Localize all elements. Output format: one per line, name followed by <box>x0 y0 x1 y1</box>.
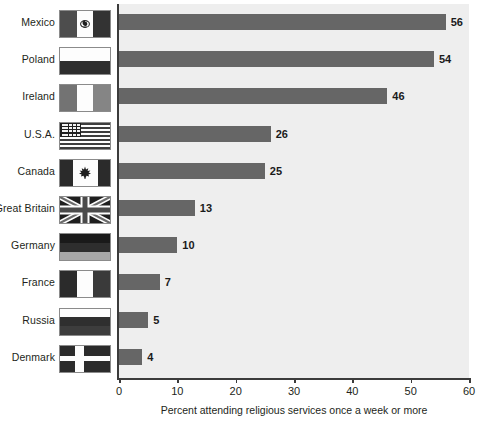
ireland-flag <box>59 84 111 112</box>
country-label: Denmark <box>0 339 55 375</box>
bar-value-label: 26 <box>276 126 288 142</box>
bar-value-label: 25 <box>270 163 282 179</box>
x-axis-tick <box>352 378 354 383</box>
bar-row: Russia5 <box>0 302 494 338</box>
bar <box>119 200 195 216</box>
country-label: Great Britain <box>0 190 55 226</box>
great-britain-flag <box>59 196 111 224</box>
bar-value-label: 56 <box>451 14 463 30</box>
bar <box>119 349 142 365</box>
usa-flag <box>59 122 111 150</box>
x-axis-tick-label: 60 <box>449 385 489 397</box>
bar-value-label: 46 <box>392 88 404 104</box>
country-label: Mexico <box>0 4 55 40</box>
bar-value-label: 54 <box>439 51 451 67</box>
x-axis-tick-label: 10 <box>157 385 197 397</box>
country-label: Poland <box>0 41 55 77</box>
mexico-flag <box>59 10 111 38</box>
x-axis-tick-label: 40 <box>332 385 372 397</box>
x-axis-tick <box>411 378 413 383</box>
bar-row: Denmark4 <box>0 339 494 375</box>
bar <box>119 88 387 104</box>
x-axis-tick <box>119 378 121 383</box>
country-label: Ireland <box>0 78 55 114</box>
bar-row: Great Britain13 <box>0 190 494 226</box>
poland-flag <box>59 47 111 75</box>
x-axis-tick-label: 0 <box>99 385 139 397</box>
country-label: Germany <box>0 227 55 263</box>
canada-flag <box>59 159 111 187</box>
x-axis-tick <box>177 378 179 383</box>
x-axis-caption: Percent attending religious services onc… <box>119 404 469 416</box>
bar-chart: Mexico56Poland54Ireland46U.S.A.26Canada2… <box>0 0 494 428</box>
bar-row: Poland54 <box>0 41 494 77</box>
country-label: Russia <box>0 302 55 338</box>
bar <box>119 126 271 142</box>
bar <box>119 51 434 67</box>
france-flag <box>59 270 111 298</box>
x-axis-tick-label: 50 <box>391 385 431 397</box>
bar <box>119 274 160 290</box>
country-label: Canada <box>0 153 55 189</box>
bar-row: Mexico56 <box>0 4 494 40</box>
bar-value-label: 5 <box>153 312 159 328</box>
bar-row: Ireland46 <box>0 78 494 114</box>
bar-row: Germany10 <box>0 227 494 263</box>
bar-value-label: 4 <box>147 349 153 365</box>
bar-row: U.S.A.26 <box>0 116 494 152</box>
bar-value-label: 13 <box>200 200 212 216</box>
bar-row: France7 <box>0 264 494 300</box>
germany-flag <box>59 233 111 261</box>
bar-value-label: 10 <box>182 237 194 253</box>
x-axis-tick-label: 20 <box>216 385 256 397</box>
x-axis-tick <box>469 378 471 383</box>
bar <box>119 237 177 253</box>
denmark-flag <box>59 345 111 373</box>
x-axis-tick-label: 30 <box>274 385 314 397</box>
russia-flag <box>59 308 111 336</box>
bar <box>119 163 265 179</box>
x-axis-line <box>117 378 469 380</box>
country-label: U.S.A. <box>0 116 55 152</box>
country-label: France <box>0 264 55 300</box>
x-axis-tick <box>236 378 238 383</box>
bar <box>119 312 148 328</box>
x-axis-tick <box>294 378 296 383</box>
bar <box>119 14 446 30</box>
bar-row: Canada25 <box>0 153 494 189</box>
bar-value-label: 7 <box>165 274 171 290</box>
